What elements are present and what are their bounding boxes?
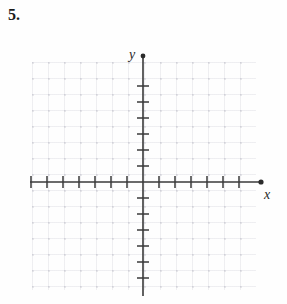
worksheet-page: 5. [0, 0, 287, 304]
y-axis [141, 54, 146, 296]
axes-group [28, 52, 268, 300]
coordinate-plane[interactable]: y x [28, 52, 268, 300]
y-axis-label: y [129, 48, 135, 62]
problem-number: 5. [8, 6, 20, 24]
x-axis-label: x [264, 188, 270, 202]
x-axis [30, 179, 264, 184]
